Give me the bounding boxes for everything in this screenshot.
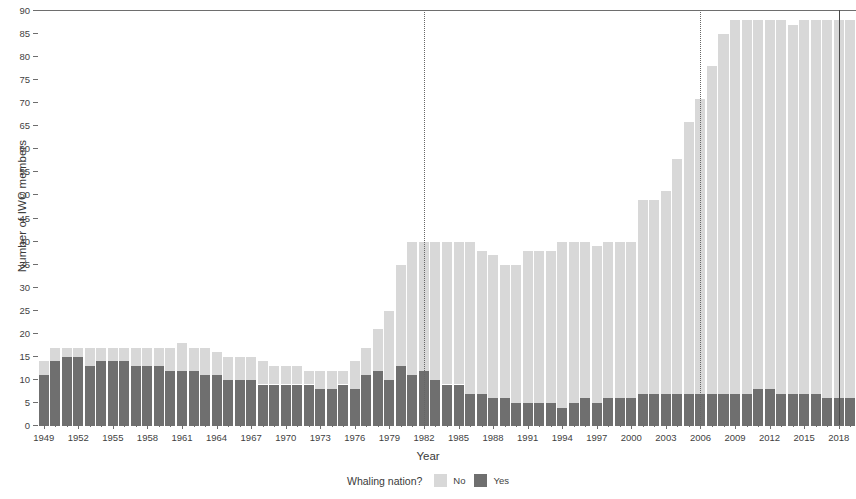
x-minor-tick: [574, 425, 575, 427]
y-tick-label: 60: [0, 143, 30, 154]
legend-item-no[interactable]: No: [434, 474, 465, 487]
y-tick-mark: [33, 425, 38, 426]
bar-segment-no: [454, 242, 464, 385]
y-tick-mark: [33, 56, 38, 57]
bar-segment-yes: [292, 385, 302, 427]
x-tick-label: 2009: [724, 432, 745, 443]
x-minor-tick: [816, 425, 817, 427]
bar-segment-yes: [384, 380, 394, 426]
bar-segment-yes: [811, 394, 821, 426]
bar-segment-no: [315, 371, 325, 389]
y-tick-mark: [33, 287, 38, 288]
x-tick-label: 1988: [483, 432, 504, 443]
x-tick-label: 1994: [552, 432, 573, 443]
bar-segment-yes: [546, 403, 556, 426]
x-tick-mark: [528, 425, 529, 429]
bar-segment-yes: [592, 403, 602, 426]
legend-title: Whaling nation?: [347, 475, 422, 487]
bar-segment-no: [269, 366, 279, 384]
bar-segment-yes: [569, 403, 579, 426]
x-tick-label: 1985: [448, 432, 469, 443]
bar-segment-no: [165, 348, 175, 371]
legend: Whaling nation? No Yes: [0, 474, 856, 487]
legend-item-yes[interactable]: Yes: [474, 474, 509, 487]
legend-swatch-yes: [474, 474, 487, 487]
x-tick-label: 1997: [586, 432, 607, 443]
x-minor-tick: [827, 425, 828, 427]
bar-segment-no: [212, 352, 222, 375]
x-minor-tick: [170, 425, 171, 427]
y-tick-label: 10: [0, 373, 30, 384]
bar-segment-yes: [108, 361, 118, 426]
plot-area: [38, 10, 856, 426]
x-tick-mark: [770, 425, 771, 429]
x-minor-tick: [643, 425, 644, 427]
x-tick-mark: [147, 425, 148, 429]
bar-segment-no: [85, 348, 95, 366]
x-minor-tick: [505, 425, 506, 427]
bar-segment-no: [569, 242, 579, 403]
bar-segment-yes: [223, 380, 233, 426]
x-minor-tick: [470, 425, 471, 427]
x-tick-mark: [286, 425, 287, 429]
x-minor-tick: [712, 425, 713, 427]
x-tick-label: 1982: [413, 432, 434, 443]
x-minor-tick: [793, 425, 794, 427]
x-tick-label: 2018: [828, 432, 849, 443]
bar-segment-no: [638, 200, 648, 394]
bar-segment-no: [730, 20, 740, 394]
x-minor-tick: [585, 425, 586, 427]
x-minor-tick: [539, 425, 540, 427]
bar-segment-yes: [212, 375, 222, 426]
x-tick-label: 1949: [33, 432, 54, 443]
x-minor-tick: [309, 425, 310, 427]
bar-segment-no: [373, 329, 383, 371]
x-tick-mark: [113, 425, 114, 429]
bar-segment-no: [281, 366, 291, 384]
bar-segment-no: [246, 357, 256, 380]
x-tick-mark: [424, 425, 425, 429]
iwc-membership-chart: Number of IWC members 051015202530354045…: [0, 0, 856, 499]
legend-label-no: No: [453, 475, 465, 486]
bar-segment-yes: [523, 403, 533, 426]
legend-label-yes: Yes: [493, 475, 509, 486]
bar-segment-yes: [407, 375, 417, 426]
y-tick-label: 15: [0, 350, 30, 361]
y-tick-mark: [33, 125, 38, 126]
x-minor-tick: [401, 425, 402, 427]
bar-segment-yes: [626, 398, 636, 426]
legend-swatch-no: [434, 474, 447, 487]
bar-segment-no: [672, 159, 682, 394]
bar-segment-yes: [661, 394, 671, 426]
bar-segment-no: [500, 265, 510, 399]
bar-segment-yes: [142, 366, 152, 426]
x-minor-tick: [332, 425, 333, 427]
bar-segment-yes: [684, 394, 694, 426]
bar-segment-yes: [373, 371, 383, 426]
bar-segment-yes: [281, 385, 291, 427]
bar-segment-yes: [649, 394, 659, 426]
bar-segment-yes: [96, 361, 106, 426]
x-tick-label: 1973: [310, 432, 331, 443]
x-minor-tick: [412, 425, 413, 427]
x-tick-label: 2003: [655, 432, 676, 443]
bar-segment-yes: [85, 366, 95, 426]
bar-segment-no: [465, 242, 475, 394]
x-tick-mark: [355, 425, 356, 429]
bar-segment-no: [154, 348, 164, 366]
y-tick-mark: [33, 241, 38, 242]
y-tick-mark: [33, 10, 38, 11]
x-tick-mark: [389, 425, 390, 429]
bar-segment-no: [442, 242, 452, 385]
x-minor-tick: [205, 425, 206, 427]
x-minor-tick: [228, 425, 229, 427]
x-minor-tick: [240, 425, 241, 427]
x-minor-tick: [677, 425, 678, 427]
bar-segment-no: [661, 191, 671, 394]
x-tick-mark: [251, 425, 252, 429]
bar-segment-no: [384, 311, 394, 380]
bar-segment-yes: [189, 371, 199, 426]
y-tick-label: 75: [0, 74, 30, 85]
bar-segment-yes: [73, 357, 83, 426]
y-tick-mark: [33, 194, 38, 195]
